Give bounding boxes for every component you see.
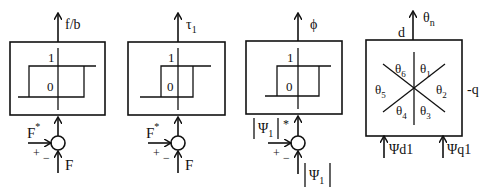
q-input-label: Ψq1 <box>447 142 471 157</box>
plus-sign: + <box>33 146 40 160</box>
block-frame <box>128 42 225 115</box>
minus-sign: − <box>43 151 50 165</box>
block-frame <box>246 41 342 114</box>
svg-text:Ψ1: Ψ1 <box>309 168 324 186</box>
sector-label-4: θ4 <box>396 103 407 121</box>
level-high-label: 1 <box>48 50 55 65</box>
svg-text:Ψ1: Ψ1 <box>258 121 273 139</box>
plus-sign: + <box>273 146 280 160</box>
summing-junction-icon <box>291 136 305 150</box>
sector-selector-block: θn d -q θ6 θ1 θ2 θ3 θ4 θ5 Ψd1 Ψq1 <box>366 10 479 158</box>
sector-label-3: θ3 <box>420 103 431 121</box>
sector-label-1: θ1 <box>420 61 431 79</box>
summing-junction-icon <box>51 136 65 150</box>
d-axis-label: d <box>398 25 405 40</box>
sector-label-2: θ2 <box>436 82 447 100</box>
sector-label-5: θ5 <box>375 82 386 100</box>
level-low-label: 0 <box>167 79 174 94</box>
d-input-label: Ψd1 <box>389 142 413 157</box>
level-low-label: 0 <box>286 79 293 94</box>
hysteresis-block-flux: 1 0 f/b F* + − F <box>10 14 105 173</box>
reference-input-label: Ψ1 * <box>254 117 289 139</box>
reference-input-label: F* <box>27 121 40 141</box>
output-label: f/b <box>65 17 81 32</box>
level-high-label: 1 <box>287 50 294 65</box>
level-low-label: 0 <box>47 79 54 94</box>
reference-input-label: F* <box>146 121 159 141</box>
output-label: θn <box>423 10 435 28</box>
control-block-diagram: 1 0 f/b F* + − F 1 0 τ1 F* + − F <box>0 0 491 196</box>
hysteresis-block-torque: 1 0 τ1 F* + − F <box>128 14 225 173</box>
plus-sign: + <box>153 146 160 160</box>
feedback-input-label: F <box>185 157 193 173</box>
output-label: τ1 <box>186 17 197 35</box>
output-label: ϕ <box>310 17 317 32</box>
q-axis-label: -q <box>467 82 479 97</box>
feedback-input-label: Ψ1 <box>305 163 330 187</box>
svg-text:*: * <box>283 117 289 131</box>
level-high-label: 1 <box>168 50 175 65</box>
hysteresis-upper-branch <box>29 66 96 97</box>
sector-label-6: θ6 <box>395 61 406 79</box>
feedback-input-label: F <box>65 157 73 173</box>
hysteresis-block-flux-magnitude: 1 0 ϕ Ψ1 * + − Ψ1 <box>246 14 342 187</box>
minus-sign: − <box>283 151 290 165</box>
minus-sign: − <box>163 151 170 165</box>
summing-junction-icon <box>171 136 185 150</box>
